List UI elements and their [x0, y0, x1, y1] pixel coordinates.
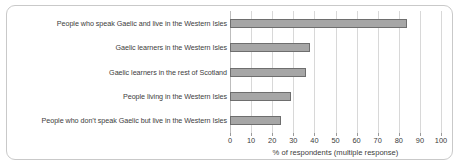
- x-axis-title: % of respondents (multiple response): [230, 148, 441, 157]
- bar-chart: People who speak Gaelic and live in the …: [7, 6, 454, 161]
- x-tick-label: 100: [429, 136, 453, 145]
- bar: [230, 43, 310, 52]
- gridline: [336, 11, 337, 133]
- bar: [230, 19, 407, 28]
- gridline: [420, 11, 421, 133]
- category-label: People who speak Gaelic and live in the …: [15, 19, 227, 28]
- bar: [230, 116, 281, 125]
- category-label: Gaelic learners in the Western Isles: [15, 43, 227, 52]
- gridline: [441, 11, 442, 133]
- bar: [230, 92, 291, 101]
- gridline: [378, 11, 379, 133]
- category-label: People living in the Western Isles: [15, 92, 227, 101]
- gridline: [357, 11, 358, 133]
- category-label: People who don’t speak Gaelic but live i…: [15, 116, 227, 125]
- plot-area: [230, 11, 441, 133]
- gridline: [399, 11, 400, 133]
- category-label: Gaelic learners in the rest of Scotland: [15, 68, 227, 77]
- gridline: [314, 11, 315, 133]
- category-axis-labels: People who speak Gaelic and live in the …: [15, 11, 227, 133]
- x-axis: 0102030405060708090100: [230, 133, 441, 146]
- chart-card: People who speak Gaelic and live in the …: [6, 5, 453, 160]
- bar: [230, 68, 306, 77]
